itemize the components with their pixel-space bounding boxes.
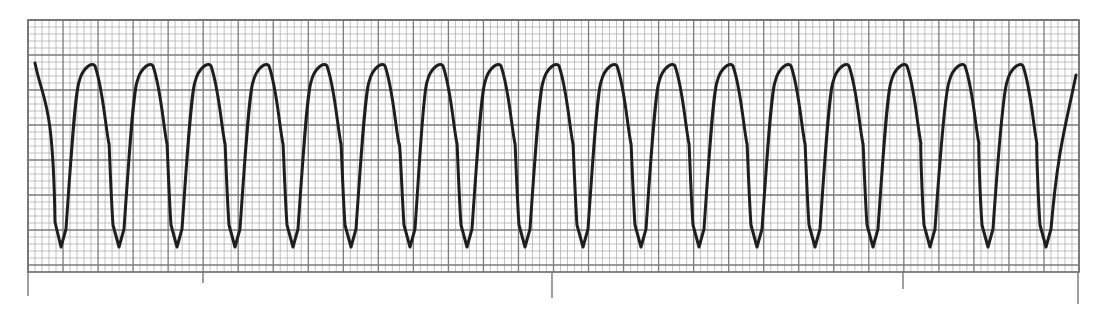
ecg-strip <box>0 0 1104 311</box>
time-marks <box>28 272 1078 304</box>
